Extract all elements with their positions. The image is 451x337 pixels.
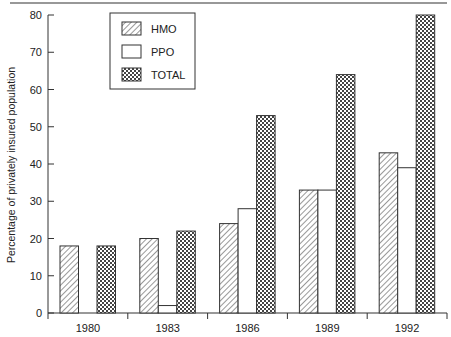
legend-swatch-ppo [122, 45, 141, 58]
bar-ppo-1989 [318, 190, 337, 313]
bar-ppo-1986 [238, 209, 257, 313]
bar-hmo-1986 [220, 224, 239, 313]
legend-label-hmo: HMO [151, 23, 177, 35]
bar-hmo-1992 [379, 153, 398, 313]
bar-hmo-1983 [140, 239, 159, 314]
y-axis-label: Percentage of privately insured populati… [5, 67, 17, 263]
legend-label-ppo: PPO [151, 46, 175, 58]
bar-ppo-1992 [398, 168, 417, 313]
bar-ppo-1983 [158, 306, 177, 313]
x-tick-label: 1980 [76, 322, 100, 334]
legend-swatch-hmo [122, 22, 141, 35]
bar-total-1992 [416, 15, 435, 313]
legend: HMOPPOTOTAL [110, 13, 195, 89]
x-axis: 19801983198619891992 [48, 313, 447, 334]
y-tick-label: 0 [36, 307, 42, 319]
y-tick-label: 80 [30, 9, 42, 21]
y-tick-label: 60 [30, 84, 42, 96]
x-tick-label: 1992 [395, 322, 419, 334]
y-tick-label: 10 [30, 270, 42, 282]
x-tick-label: 1983 [155, 322, 179, 334]
y-tick-label: 40 [30, 158, 42, 170]
bar-hmo-1989 [299, 190, 318, 313]
y-axis: 01020304050607080 [30, 9, 54, 319]
bar-hmo-1980 [60, 246, 79, 313]
y-tick-label: 20 [30, 233, 42, 245]
x-tick-label: 1989 [315, 322, 339, 334]
y-tick-label: 30 [30, 195, 42, 207]
bar-chart-svg: 01020304050607080 19801983198619891992 P… [0, 0, 451, 337]
chart: 01020304050607080 19801983198619891992 P… [0, 0, 451, 337]
legend-swatch-total [122, 68, 141, 81]
bar-total-1980 [97, 246, 116, 313]
bar-total-1989 [336, 75, 355, 313]
x-tick-label: 1986 [235, 322, 259, 334]
y-tick-label: 70 [30, 46, 42, 58]
bar-total-1983 [177, 231, 196, 313]
y-tick-label: 50 [30, 121, 42, 133]
bar-total-1986 [257, 116, 276, 313]
legend-label-total: TOTAL [151, 69, 185, 81]
